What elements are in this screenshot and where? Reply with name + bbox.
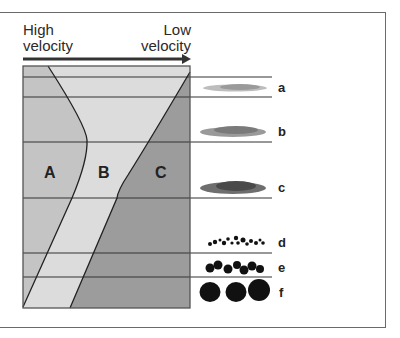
zone-a-label: A [44,164,56,181]
sediment-b-icon [200,126,266,137]
zone-b-label: B [98,164,110,181]
arrow-head-icon [182,54,191,64]
sediment-a-icon [203,84,267,92]
sediment-a-label: a [278,80,286,95]
sediment-c-label: c [278,180,285,195]
sediment-e-icon [206,261,265,275]
velocity-sediment-diagram: A B C a b c d e f [0,0,400,338]
sediment-e-label: e [278,260,285,275]
sediment-c-icon [200,181,266,194]
sediment-d-icon [208,236,265,246]
sediment-f-label: f [279,285,284,300]
sediment-b-label: b [278,124,286,139]
sediment-f-icon [200,279,271,302]
zone-c-label: C [155,164,167,181]
velocity-arrow [23,54,191,64]
sediment-d-label: d [278,235,286,250]
